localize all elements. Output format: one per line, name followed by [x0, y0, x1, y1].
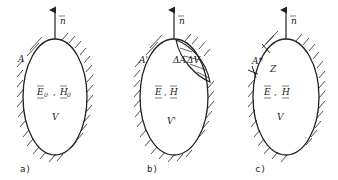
panel-caption: b) [147, 164, 158, 174]
field-e-label: E [36, 87, 44, 97]
panel-a: n A E 0 , H 0 V a) [17, 10, 93, 174]
panel-caption: c) [255, 164, 266, 174]
surface-label: A' [138, 55, 148, 65]
field-h-label: H [169, 87, 178, 97]
volume-label: V [277, 112, 285, 122]
hatching [17, 33, 93, 162]
field-h-label: H [281, 87, 290, 97]
field-e-label: E [154, 87, 162, 97]
normal-label: n [179, 16, 185, 26]
delta-area-label: ΔA [172, 55, 186, 65]
diagram-canvas: n A E 0 , H 0 V a) [0, 0, 338, 180]
delta-volume-label: ΔV [186, 55, 201, 65]
svg-text:,: , [53, 87, 56, 97]
surface-label: A [17, 54, 25, 64]
impedance-label: Z [269, 64, 277, 74]
volume-boundary [23, 39, 87, 155]
svg-text:,: , [164, 87, 167, 97]
volume-label: V' [167, 116, 176, 126]
normal-label: n [60, 16, 66, 26]
svg-text:,: , [274, 87, 277, 97]
surface-label: A* [251, 56, 263, 66]
normal-label: n [291, 16, 297, 26]
panel-b: n A' ΔA ΔV E , H V' b) [134, 10, 214, 174]
panel-caption: a) [20, 164, 31, 174]
panel-c: n A* Z E , H V c) [248, 10, 325, 174]
field-e-label: E [263, 87, 271, 97]
vector-overbars [37, 16, 296, 86]
volume-label: V [52, 112, 60, 122]
svg-text:0: 0 [67, 91, 71, 98]
svg-text:0: 0 [44, 91, 48, 98]
